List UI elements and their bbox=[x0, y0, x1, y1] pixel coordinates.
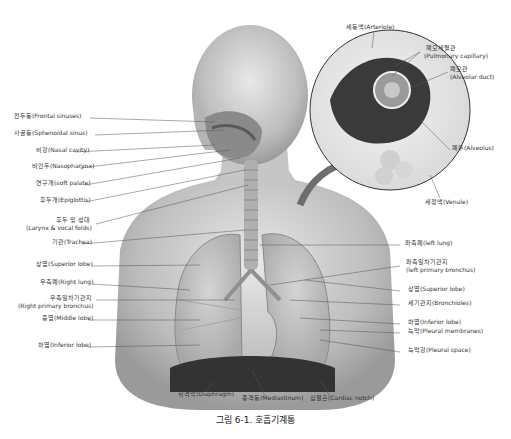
label-alveolar-duct-2: (Alveolar duct) bbox=[450, 73, 494, 80]
label-arteriole: 세동맥(Arteriole) bbox=[346, 23, 394, 30]
label-larynx-line1: 후두 및 성대 bbox=[56, 216, 90, 223]
label-cardiac-notch: 심절흔(Cardiac notch) bbox=[310, 394, 374, 401]
label-right-bronchus-line2: (Right primary bronchus) bbox=[18, 302, 93, 309]
label-superior-lobe-right: 상엽(Superior lobe) bbox=[36, 260, 93, 267]
label-soft-palate: 연구개(soft palate) bbox=[36, 179, 91, 186]
label-alveolar-duct-1: 폐모관 bbox=[450, 65, 468, 72]
label-superior-lobe-left: 상엽(Superior lobe) bbox=[408, 285, 465, 292]
label-epiglottis: 후두개(Epiglottis) bbox=[40, 196, 91, 203]
label-left-bronchus-1: 좌측일차기관지 bbox=[406, 258, 448, 265]
trachea bbox=[244, 160, 258, 270]
figure-caption: 그림 6-1. 호흡기계통 bbox=[0, 413, 511, 426]
label-right-lung: 우측폐(Right lung) bbox=[40, 278, 93, 285]
label-mediastinum: 종격동(Mediastinum) bbox=[242, 394, 303, 401]
label-right-bronchus-line1: 우측일차기관지 bbox=[50, 294, 92, 301]
label-alveolus: 폐우(Alveolus) bbox=[452, 144, 494, 151]
label-nasopharynx: 비인두(Nasopharynx) bbox=[32, 162, 94, 169]
label-larynx-line2: (Larynx & vocal folds) bbox=[26, 224, 92, 231]
label-left-lung: 좌측폐(left lung) bbox=[405, 239, 452, 246]
label-frontal-sinuses: 전두동(Frontal sinuses) bbox=[14, 112, 81, 119]
label-nasal-cavity: 비강(Nasal cavity) bbox=[36, 146, 89, 153]
label-pulmonary-capillary-2: (Pulmonary capillary) bbox=[424, 52, 488, 59]
diaphragm-shape bbox=[170, 356, 335, 392]
label-middle-lobe: 중엽(Middle lobe) bbox=[42, 314, 93, 321]
label-diaphragm: 횡격막(Diaphragm) bbox=[178, 390, 234, 397]
label-inferior-lobe-right: 하엽(Inferior lobe) bbox=[38, 341, 91, 348]
label-bronchioles: 세기관지(Bronchioles) bbox=[408, 299, 472, 306]
label-pleural-space: 늑막강(Pleural space) bbox=[408, 346, 471, 353]
label-inferior-lobe-left: 하엽(Inferior lobe) bbox=[408, 318, 461, 325]
label-trachea: 기관(Trachea) bbox=[52, 238, 92, 245]
label-pleural-membranes: 늑막(Pleural membranes) bbox=[408, 327, 483, 334]
label-sphenoidal-sinus: 사골동(Sphenoidal sinus) bbox=[14, 129, 88, 136]
label-pulmonary-capillary-1: 폐모세혈관 bbox=[426, 44, 456, 51]
label-venule: 세정맥(Venule) bbox=[425, 198, 468, 205]
label-left-bronchus-2: (left primary bronchus) bbox=[406, 266, 475, 273]
